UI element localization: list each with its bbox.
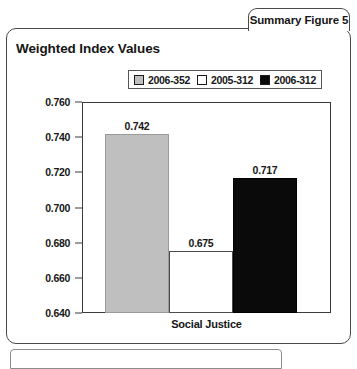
y-axis-tick-label: 0.640 [45,307,70,319]
y-axis-tick-label: 0.680 [45,237,70,249]
y-axis-tick-mark [75,137,82,138]
y-axis-tick-label: 0.760 [45,96,70,108]
bar-value-label: 0.675 [169,237,233,249]
chart-legend: 2006-352 2005-312 2006-312 [128,70,322,89]
legend-label: 2006-312 [274,74,316,86]
bar-value-label: 0.742 [105,120,169,132]
y-axis-tick-label: 0.700 [45,202,70,214]
legend-item-2005-312[interactable]: 2005-312 [197,74,253,86]
page-title: Weighted Index Values [16,41,160,56]
y-axis-tick-mark [75,102,82,103]
legend-swatch-icon [134,75,144,85]
x-axis-label: Social Justice [82,318,331,330]
legend-swatch-icon [197,75,207,85]
y-axis-tick-mark [75,313,82,314]
y-axis-tick-mark [75,172,82,173]
bar-2006-352[interactable] [105,134,169,313]
bar-2005-312[interactable] [169,251,233,313]
y-axis-tick-mark [75,277,82,278]
tab-merge-mask [251,26,347,31]
legend-item-2006-312[interactable]: 2006-312 [260,74,316,86]
bar-value-label: 0.717 [233,164,297,176]
bar-2006-312[interactable] [233,178,297,313]
summary-figure-tab-label: Summary Figure 5 [250,14,349,26]
y-axis-tick-label: 0.740 [45,131,70,143]
legend-label: 2005-312 [211,74,253,86]
y-axis-tick-mark [75,207,82,208]
legend-swatch-icon [260,75,270,85]
y-axis-tick-label: 0.720 [45,166,70,178]
legend-item-2006-352[interactable]: 2006-352 [134,74,190,86]
y-axis-tick-label: 0.660 [45,272,70,284]
legend-label: 2006-352 [148,74,190,86]
y-axis-tick-mark [75,242,82,243]
next-figure-card [10,349,282,369]
